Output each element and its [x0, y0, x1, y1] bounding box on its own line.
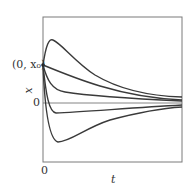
x-axis-label: t	[111, 173, 115, 186]
curve-overshoot	[43, 40, 182, 97]
curve-slow-decay	[43, 65, 182, 100]
curve-deep-undershoot	[43, 65, 182, 142]
initial-point-label: (0, x₀)	[12, 58, 45, 71]
x-zero-label: 0	[41, 164, 48, 177]
plot-area	[0, 0, 195, 188]
y-axis-label: x	[22, 87, 35, 93]
y-zero-label: 0	[33, 96, 40, 109]
